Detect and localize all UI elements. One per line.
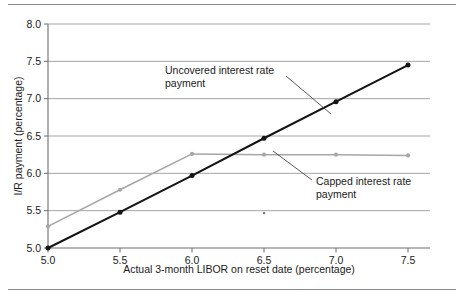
x-tick-label: 7.5 (401, 254, 416, 266)
y-axis-ticks (44, 24, 48, 248)
figure-container: 5.05.56.06.57.07.58.0 5.05.56.06.57.07.5… (0, 0, 464, 302)
y-axis-tick-labels: 5.05.56.06.57.07.58.0 (26, 18, 41, 254)
annotation-label: payment (316, 188, 356, 200)
data-point-marker (262, 153, 266, 157)
y-tick-label: 5.0 (26, 242, 41, 254)
y-tick-label: 6.0 (26, 167, 41, 179)
data-point-marker (190, 152, 194, 156)
data-point-marker (334, 99, 339, 104)
data-point-marker (46, 224, 50, 228)
line-chart: 5.05.56.06.57.07.58.0 5.05.56.06.57.07.5… (0, 0, 464, 302)
scan-speck-artifact (263, 212, 265, 214)
data-point-marker (406, 153, 410, 157)
annotation-label: payment (165, 77, 205, 89)
y-tick-label: 5.5 (26, 204, 41, 216)
x-axis-ticks (48, 248, 408, 253)
annotation-label: Capped interest rate (316, 175, 411, 187)
data-point-marker (262, 136, 267, 141)
y-tick-label: 6.5 (26, 130, 41, 142)
annotation-label: Uncovered interest rate (165, 64, 274, 76)
series-line (48, 65, 408, 248)
data-point-marker (118, 210, 123, 215)
y-tick-label: 7.0 (26, 92, 41, 104)
x-axis-title: Actual 3-month LIBOR on reset date (perc… (123, 263, 355, 275)
y-tick-label: 7.5 (26, 55, 41, 67)
data-series-group (46, 63, 411, 251)
y-tick-label: 8.0 (26, 18, 41, 30)
y-axis-title: I/R payment (percentage) (12, 76, 24, 195)
x-tick-label: 5.0 (41, 254, 56, 266)
annotations-group: Uncovered interest ratepaymentCapped int… (165, 64, 411, 200)
data-point-marker (46, 246, 51, 251)
annotation-leader-line (286, 76, 331, 114)
data-point-marker (118, 188, 122, 192)
data-point-marker (406, 63, 411, 68)
data-point-marker (334, 153, 338, 157)
data-point-marker (190, 173, 195, 178)
